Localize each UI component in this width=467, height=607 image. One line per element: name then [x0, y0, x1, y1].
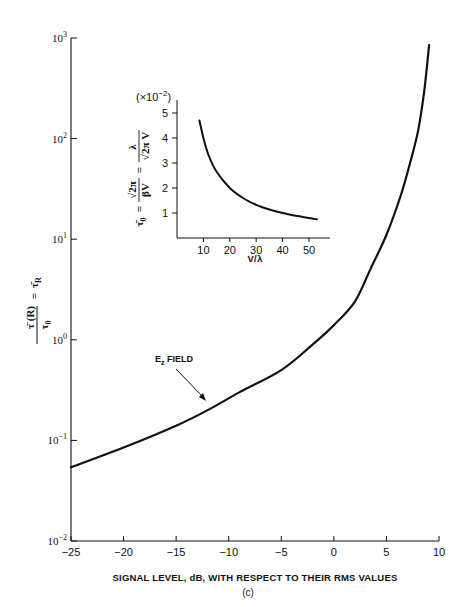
x-axis-label: SIGNAL LEVEL, dB, WITH RESPECT TO THEIR … — [113, 572, 398, 583]
y-axis-label: τ̄ (R) τ0 = τ̄R — [24, 277, 53, 344]
annotation-label: Ez FIELD — [155, 354, 194, 366]
inset-y-tick-label: 3 — [162, 157, 168, 169]
y-tick-label: 101 — [52, 231, 67, 245]
inset-y-ticks: 12345 — [162, 107, 177, 219]
inset-y-tick-label: 4 — [162, 132, 168, 144]
x-tick-label: −10 — [219, 546, 238, 558]
inset-x-tick-label: 50 — [303, 244, 315, 256]
inset-ylabel-frac1-den: βV — [139, 183, 151, 197]
x-tick-label: 0 — [331, 546, 337, 558]
y-ticks: 10−210−1100101102103 — [47, 30, 77, 547]
x-tick-label: −5 — [275, 546, 288, 558]
inset-y-tick-label: 1 — [162, 207, 168, 219]
inset-curve — [199, 121, 317, 220]
figure-caption: (c) — [242, 587, 254, 598]
y-tick-label: 100 — [52, 332, 67, 346]
inset-ylabel-frac2-den: √2π V — [139, 132, 151, 160]
inset-ylabel-eq2: = — [133, 167, 145, 173]
x-tick-label: −15 — [167, 546, 186, 558]
x-tick-label: 10 — [433, 546, 445, 558]
inset-ylabel-lhs: τ̄0 — [133, 217, 148, 226]
inset-x-tick-label: 40 — [276, 244, 288, 256]
x-tick-label: 5 — [383, 546, 389, 558]
y-tick-label: 103 — [52, 30, 67, 44]
x-tick-label: −20 — [114, 546, 133, 558]
inset-multiplier: (×10−2) — [136, 89, 171, 103]
y-label-equals: = — [28, 293, 40, 299]
inset-chart: 12345 1020304050 (×10−2) V/λ τ̄0 = √2π β… — [126, 89, 330, 264]
y-label-rhs: τ̄R — [28, 277, 43, 288]
inset-x-axis-label: V/λ — [248, 253, 263, 264]
inset-ylabel-frac2-num: λ — [126, 144, 138, 150]
annotation-arrow — [176, 369, 204, 398]
inset-ylabel-frac1-num: √2π — [126, 181, 138, 199]
inset-x-tick-label: 10 — [197, 244, 209, 256]
figure: 10−210−1100101102103 −25−20−15−10−50510 … — [0, 0, 467, 607]
inset-ylabel-eq1: = — [133, 206, 145, 212]
inset-y-axis-label: τ̄0 = √2π βV = λ √2π V — [126, 130, 151, 227]
y-label-numerator: τ̄ (R) — [24, 306, 37, 329]
y-tick-label: 10−2 — [47, 533, 67, 547]
x-ticks: −25−20−15−10−50510 — [62, 536, 445, 558]
y-tick-label: 102 — [52, 131, 67, 145]
inset-x-tick-label: 20 — [224, 244, 236, 256]
y-label-denominator: τ0 — [38, 320, 53, 329]
y-tick-label: 10−1 — [47, 432, 67, 446]
e-z-field-annotation: Ez FIELD — [155, 354, 206, 401]
main-axes: 10−210−1100101102103 −25−20−15−10−50510 — [47, 30, 445, 558]
inset-y-tick-label: 2 — [162, 182, 168, 194]
inset-y-tick-label: 5 — [162, 107, 168, 119]
x-tick-label: −25 — [62, 546, 81, 558]
